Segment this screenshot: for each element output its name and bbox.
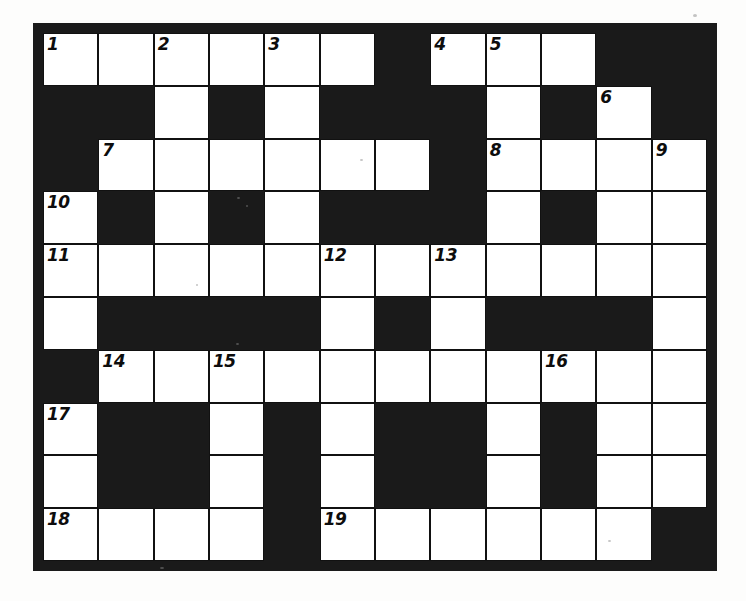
- white-cell[interactable]: [486, 86, 541, 139]
- white-cell[interactable]: 10: [43, 191, 98, 244]
- white-cell[interactable]: [98, 33, 153, 86]
- white-cell[interactable]: [209, 455, 264, 508]
- white-cell[interactable]: 17: [43, 403, 98, 456]
- white-cell[interactable]: 14: [98, 350, 153, 403]
- white-cell[interactable]: [320, 33, 375, 86]
- cell-number: 10: [47, 192, 70, 212]
- white-cell[interactable]: [209, 139, 264, 192]
- block-cell: [209, 191, 264, 244]
- white-cell[interactable]: [652, 350, 707, 403]
- white-cell[interactable]: [320, 139, 375, 192]
- white-cell[interactable]: [264, 139, 319, 192]
- white-cell[interactable]: [43, 297, 98, 350]
- white-cell[interactable]: [209, 508, 264, 561]
- white-cell[interactable]: [596, 508, 651, 561]
- page-surface: 12345678910111213141516171819: [0, 0, 746, 601]
- white-cell[interactable]: [430, 508, 485, 561]
- white-cell[interactable]: [486, 244, 541, 297]
- cell-number: 4: [434, 34, 445, 54]
- white-cell[interactable]: [596, 139, 651, 192]
- white-cell[interactable]: [541, 139, 596, 192]
- white-cell[interactable]: 3: [264, 33, 319, 86]
- white-cell[interactable]: [596, 244, 651, 297]
- white-cell[interactable]: [541, 244, 596, 297]
- white-cell[interactable]: [652, 191, 707, 244]
- white-cell[interactable]: [154, 350, 209, 403]
- white-cell[interactable]: [596, 455, 651, 508]
- white-cell[interactable]: [320, 455, 375, 508]
- block-cell: [154, 403, 209, 456]
- white-cell[interactable]: [652, 403, 707, 456]
- white-cell[interactable]: [98, 244, 153, 297]
- white-cell[interactable]: [541, 33, 596, 86]
- white-cell[interactable]: 8: [486, 139, 541, 192]
- block-cell: [43, 139, 98, 192]
- white-cell[interactable]: [375, 350, 430, 403]
- white-cell[interactable]: 19: [320, 508, 375, 561]
- white-cell[interactable]: [320, 350, 375, 403]
- white-cell[interactable]: [486, 403, 541, 456]
- white-cell[interactable]: [375, 139, 430, 192]
- crossword-grid[interactable]: 12345678910111213141516171819: [43, 33, 707, 561]
- white-cell[interactable]: [154, 139, 209, 192]
- white-cell[interactable]: [320, 403, 375, 456]
- white-cell[interactable]: [596, 403, 651, 456]
- white-cell[interactable]: [652, 455, 707, 508]
- block-cell: [652, 86, 707, 139]
- white-cell[interactable]: [486, 508, 541, 561]
- block-cell: [541, 455, 596, 508]
- white-cell[interactable]: [154, 86, 209, 139]
- white-cell[interactable]: [541, 508, 596, 561]
- white-cell[interactable]: [486, 455, 541, 508]
- white-cell[interactable]: [652, 297, 707, 350]
- block-cell: [375, 33, 430, 86]
- block-cell: [541, 191, 596, 244]
- white-cell[interactable]: 18: [43, 508, 98, 561]
- white-cell[interactable]: [264, 191, 319, 244]
- white-cell[interactable]: [209, 403, 264, 456]
- paper-speckle: [693, 14, 697, 17]
- white-cell[interactable]: [154, 191, 209, 244]
- white-cell[interactable]: 6: [596, 86, 651, 139]
- white-cell[interactable]: 12: [320, 244, 375, 297]
- white-cell[interactable]: [430, 297, 485, 350]
- white-cell[interactable]: [264, 86, 319, 139]
- white-cell[interactable]: [430, 350, 485, 403]
- white-cell[interactable]: 7: [98, 139, 153, 192]
- block-cell: [154, 455, 209, 508]
- block-cell: [541, 297, 596, 350]
- white-cell[interactable]: [264, 350, 319, 403]
- white-cell[interactable]: [209, 244, 264, 297]
- cell-number: 8: [490, 140, 501, 160]
- white-cell[interactable]: [486, 350, 541, 403]
- block-cell: [98, 403, 153, 456]
- white-cell[interactable]: [375, 244, 430, 297]
- white-cell[interactable]: 5: [486, 33, 541, 86]
- white-cell[interactable]: [154, 508, 209, 561]
- white-cell[interactable]: [486, 191, 541, 244]
- white-cell[interactable]: [375, 508, 430, 561]
- white-cell[interactable]: [98, 508, 153, 561]
- white-cell[interactable]: [264, 244, 319, 297]
- white-cell[interactable]: 16: [541, 350, 596, 403]
- white-cell[interactable]: 15: [209, 350, 264, 403]
- white-cell[interactable]: 4: [430, 33, 485, 86]
- cell-number: 9: [656, 140, 667, 160]
- cell-number: 3: [268, 34, 279, 54]
- white-cell[interactable]: [209, 33, 264, 86]
- block-cell: [375, 191, 430, 244]
- white-cell[interactable]: [596, 191, 651, 244]
- white-cell[interactable]: [320, 297, 375, 350]
- white-cell[interactable]: [596, 350, 651, 403]
- block-cell: [43, 86, 98, 139]
- white-cell[interactable]: [154, 244, 209, 297]
- block-cell: [596, 33, 651, 86]
- white-cell[interactable]: 11: [43, 244, 98, 297]
- white-cell[interactable]: 1: [43, 33, 98, 86]
- white-cell[interactable]: [652, 244, 707, 297]
- white-cell[interactable]: 9: [652, 139, 707, 192]
- block-cell: [98, 191, 153, 244]
- white-cell[interactable]: 2: [154, 33, 209, 86]
- white-cell[interactable]: 13: [430, 244, 485, 297]
- white-cell[interactable]: [43, 455, 98, 508]
